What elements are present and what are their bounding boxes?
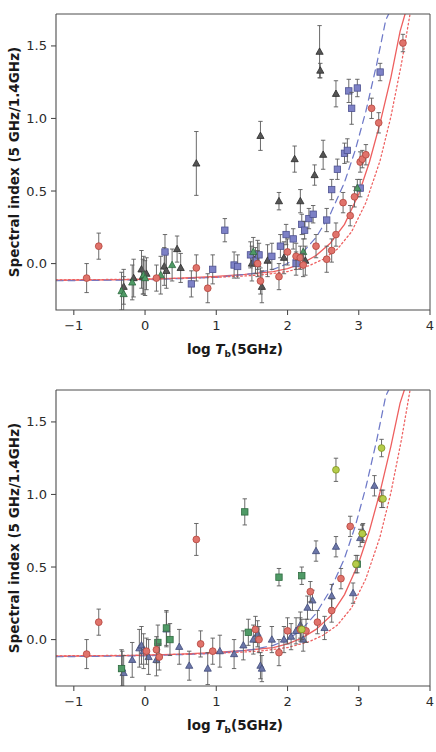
data-point-triangle xyxy=(312,547,319,553)
data-point-circle xyxy=(307,588,314,595)
data-point-square xyxy=(277,243,283,249)
data-point-square xyxy=(283,231,289,237)
data-point-circle xyxy=(347,523,354,530)
model-curve-model-dotted-red xyxy=(56,390,410,656)
data-point-circle xyxy=(276,649,283,656)
data-point-circle xyxy=(328,607,335,614)
data-point-circle xyxy=(314,619,321,626)
data-point-square xyxy=(163,625,169,631)
data-point-square xyxy=(301,227,307,233)
xaxis-title-prefix: log xyxy=(187,341,215,357)
xtick-label: −1 xyxy=(64,318,83,333)
data-point-circle xyxy=(313,243,320,250)
ytick-label: 0.5 xyxy=(26,184,47,199)
data-point-circle xyxy=(257,278,264,285)
data-point-square xyxy=(162,249,168,255)
data-point-circle xyxy=(209,648,216,655)
data-point-square xyxy=(210,266,216,272)
series-olive-circles xyxy=(298,439,386,639)
data-point-circle xyxy=(193,536,200,543)
data-point-square xyxy=(188,281,194,287)
ytick-label: 1.5 xyxy=(26,38,47,53)
axis-spine-left-bottom xyxy=(56,14,430,310)
xtick-label: 4 xyxy=(426,694,434,709)
figure-container: −1012340.00.51.01.5log Tb(5GHz)Spectral … xyxy=(0,0,436,752)
chart-panel-top: −1012340.00.51.01.5log Tb(5GHz)Spectral … xyxy=(0,0,436,376)
data-point-triangle xyxy=(268,636,275,642)
data-point-square xyxy=(118,665,124,671)
data-point-circle xyxy=(378,445,385,452)
chart-panel-bottom: −1012340.00.51.01.5log Tb(5GHz)Spectral … xyxy=(0,376,436,752)
data-point-triangle xyxy=(332,90,339,96)
data-point-circle xyxy=(153,646,160,653)
data-point-circle xyxy=(284,249,291,256)
ytick-label: 1.0 xyxy=(26,487,47,502)
ytick-label: 1.5 xyxy=(26,414,47,429)
data-point-triangle xyxy=(130,274,137,280)
data-point-circle xyxy=(353,561,360,568)
data-point-circle xyxy=(351,193,358,200)
scatter-plot-top: −1012340.00.51.01.5log Tb(5GHz)Spectral … xyxy=(0,0,436,376)
plot-area xyxy=(56,390,410,690)
data-point-circle xyxy=(254,260,261,267)
data-point-circle xyxy=(323,256,330,263)
data-point-square xyxy=(155,639,161,645)
xtick-label: 1 xyxy=(212,318,220,333)
data-point-circle xyxy=(252,626,259,633)
data-point-circle xyxy=(156,654,163,661)
data-point-triangle xyxy=(332,543,339,549)
ytick-label: 1.0 xyxy=(26,111,47,126)
data-point-circle xyxy=(256,636,263,643)
data-point-triangle xyxy=(186,662,193,668)
xaxis-title: log Tb(5GHz) xyxy=(187,717,283,735)
xaxis-title-suffix: (5GHz) xyxy=(231,341,283,357)
xaxis-title-suffix: (5GHz) xyxy=(231,717,283,733)
xaxis-title: log Tb(5GHz) xyxy=(187,341,283,359)
data-point-square xyxy=(377,69,383,75)
data-point-triangle xyxy=(275,197,282,203)
data-point-circle xyxy=(333,231,340,238)
model-curve-model-solid-red xyxy=(56,14,405,280)
series-green-triangles xyxy=(118,179,361,311)
data-point-triangle xyxy=(193,160,200,166)
data-point-triangle xyxy=(297,197,304,203)
data-point-square xyxy=(354,85,360,91)
model-curve-model-dashed-blue xyxy=(56,14,389,281)
data-point-triangle xyxy=(174,245,181,251)
data-point-square xyxy=(234,263,240,269)
data-point-triangle xyxy=(240,642,247,648)
data-point-triangle xyxy=(316,48,323,54)
data-point-square xyxy=(346,88,352,94)
data-point-circle xyxy=(83,275,90,282)
data-point-triangle xyxy=(371,482,378,488)
yaxis-title: Spectral index (5 GHz/1.4GHz) xyxy=(6,47,22,277)
data-point-circle xyxy=(193,265,200,272)
data-point-triangle xyxy=(328,592,335,598)
data-point-circle xyxy=(359,530,366,537)
data-point-triangle xyxy=(304,604,311,610)
data-point-triangle xyxy=(317,67,324,73)
scatter-plot-bottom: −1012340.00.51.01.5log Tb(5GHz)Spectral … xyxy=(0,376,436,752)
data-point-circle xyxy=(400,40,407,47)
data-point-square xyxy=(269,253,275,259)
axis-frame: −1012340.00.51.01.5 xyxy=(26,14,434,333)
plot-area xyxy=(56,14,410,311)
series-dark-triangles xyxy=(120,26,339,305)
xaxis-title-prefix: log xyxy=(187,717,215,733)
data-point-circle xyxy=(297,254,304,261)
model-curve-model-dotted-red xyxy=(56,14,410,280)
data-point-circle xyxy=(95,243,102,250)
xtick-label: −1 xyxy=(64,694,83,709)
ytick-label: 0.0 xyxy=(26,632,47,647)
ytick-label: 0.0 xyxy=(26,256,47,271)
data-point-circle xyxy=(197,641,204,648)
xtick-label: 0 xyxy=(141,694,149,709)
xtick-label: 3 xyxy=(355,318,363,333)
data-point-triangle xyxy=(321,624,328,630)
data-point-square xyxy=(310,211,316,217)
data-point-triangle xyxy=(216,647,223,653)
ytick-label: 0.5 xyxy=(26,560,47,575)
data-point-circle xyxy=(375,119,382,126)
xtick-label: 1 xyxy=(212,694,220,709)
data-point-triangle xyxy=(311,171,318,177)
